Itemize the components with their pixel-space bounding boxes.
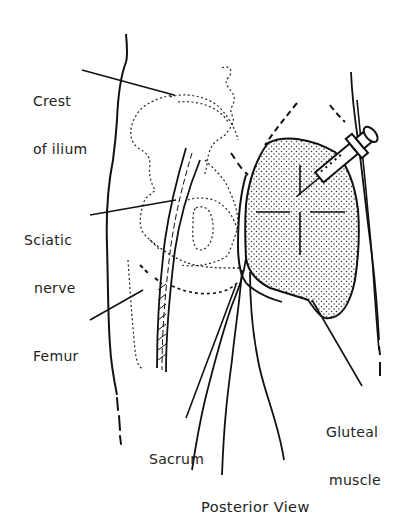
- diagram-caption: Posterior View: [201, 499, 310, 515]
- femur-outline: [128, 260, 142, 368]
- label-crest-line2: of ilium: [33, 141, 88, 157]
- crest-leader-line: [82, 70, 174, 95]
- label-femur: Femur: [33, 316, 79, 380]
- sacrum-outline: [204, 67, 234, 175]
- label-gluteal-line1: Gluteal: [326, 424, 381, 440]
- label-sciatic-line1: Sciatic: [24, 232, 76, 248]
- label-crest-of-ilium: Crest of ilium: [33, 61, 88, 173]
- ilium-outline: [131, 95, 175, 250]
- label-crest-line1: Crest: [33, 93, 88, 109]
- sciatic-nerve: [157, 148, 186, 368]
- label-sciatic-line2: nerve: [24, 280, 76, 296]
- label-sacrum: Sacrum: [149, 419, 204, 483]
- label-gluteal-muscle: Gluteal muscle: [326, 392, 381, 504]
- label-sacrum-text: Sacrum: [149, 451, 204, 467]
- label-gluteal-line2: muscle: [326, 472, 381, 488]
- femur-leader-line: [90, 290, 143, 320]
- pelvis-lower-curve: [172, 282, 238, 294]
- label-sciatic-nerve: Sciatic nerve: [24, 200, 76, 312]
- label-femur-text: Femur: [33, 348, 79, 364]
- sciatic-leader-line: [90, 200, 176, 215]
- left-body-outline: [107, 34, 127, 395]
- sacrum-leader-line: [186, 285, 236, 418]
